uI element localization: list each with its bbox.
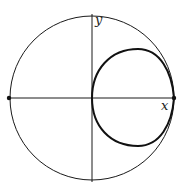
point-left — [7, 96, 11, 100]
point-right — [172, 96, 176, 100]
x-axis-label: x — [161, 98, 169, 113]
polar-diagram: y x — [0, 0, 181, 189]
y-axis-label: y — [94, 12, 103, 27]
